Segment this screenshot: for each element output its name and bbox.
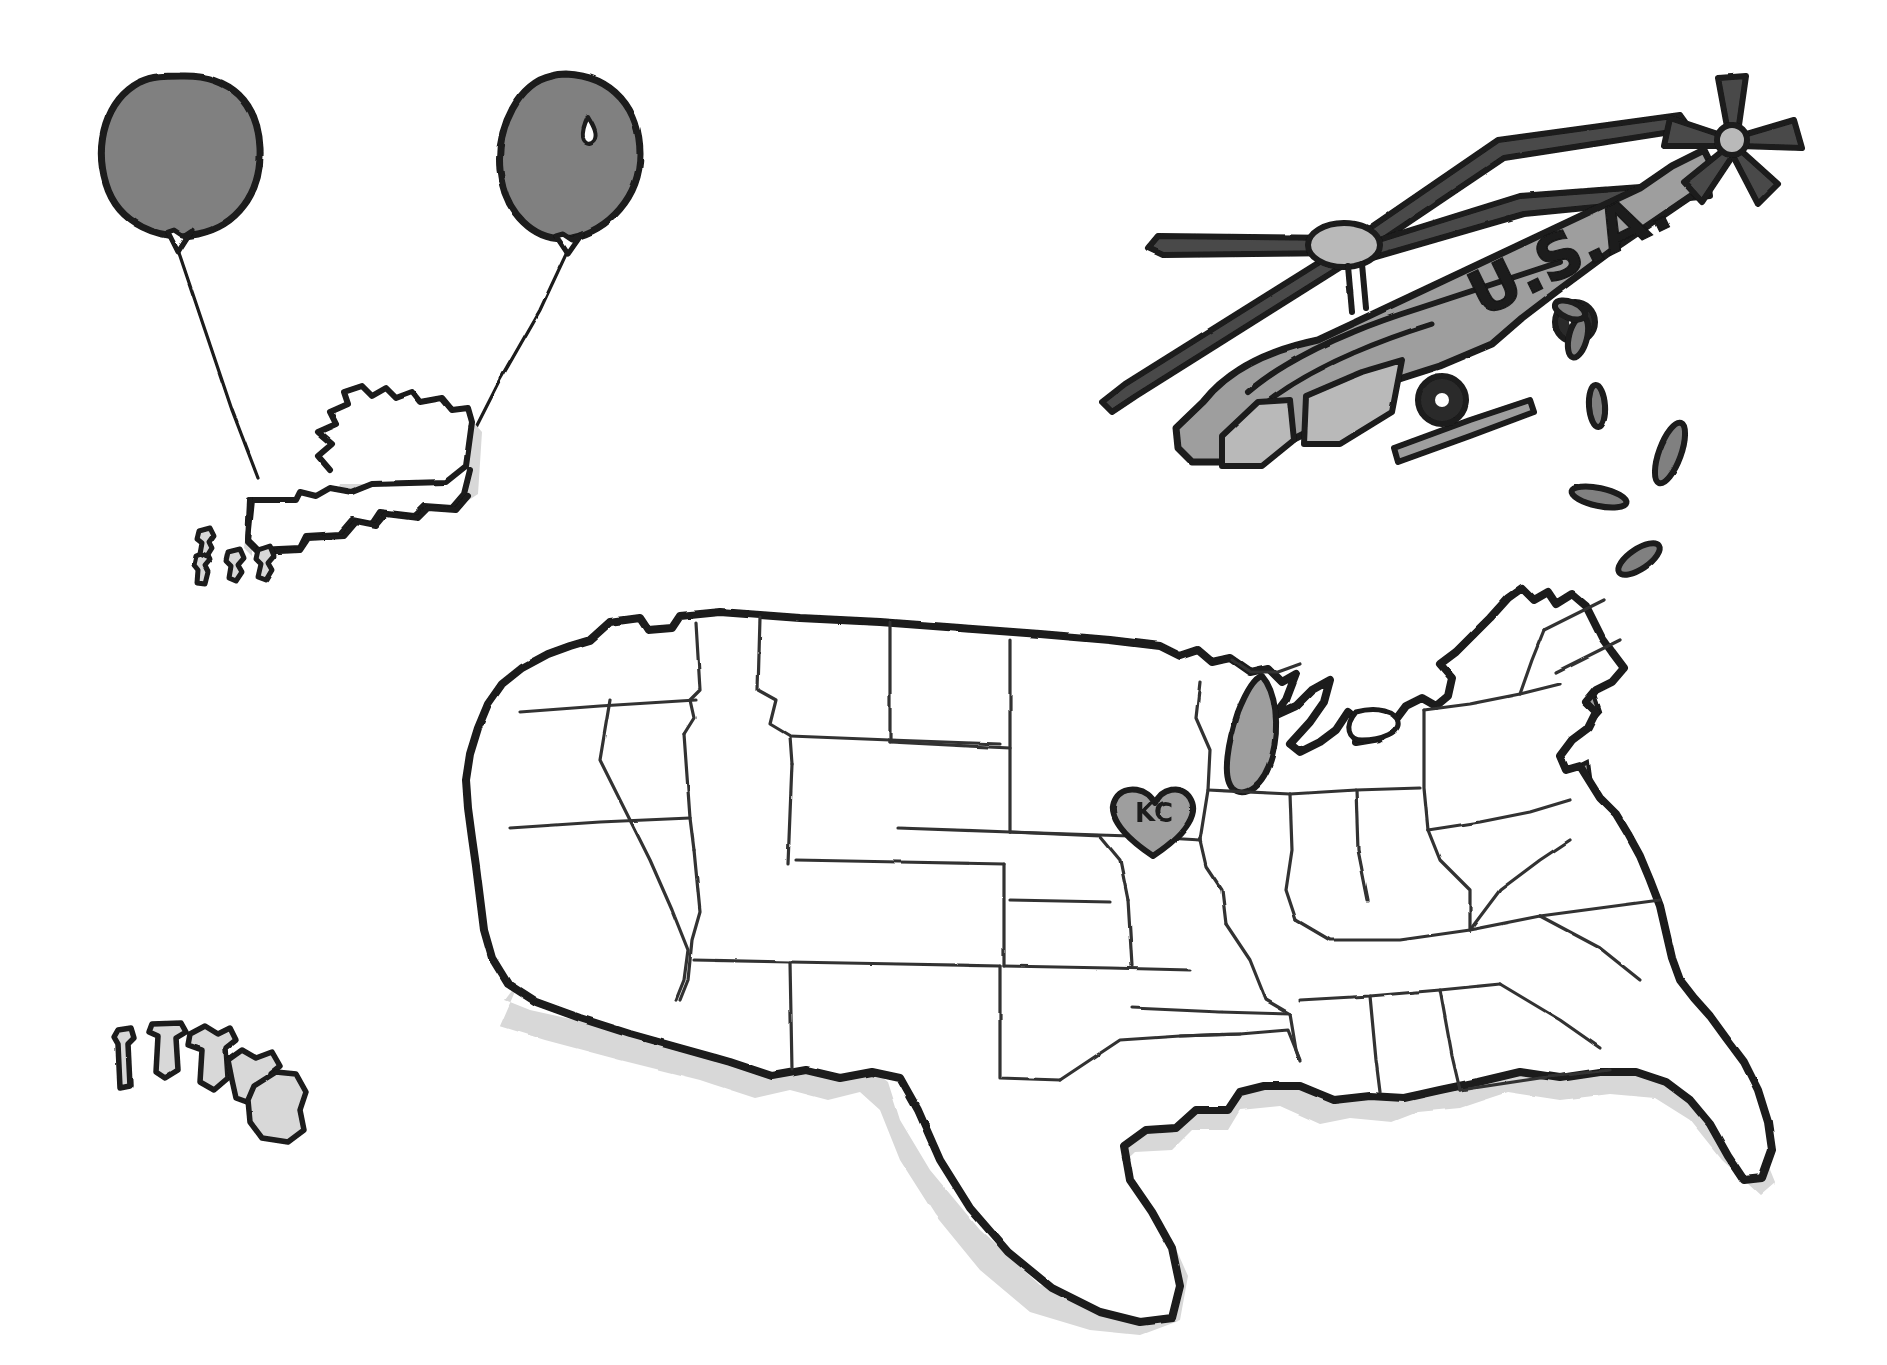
balloon-left (101, 76, 260, 236)
tail-rotor-hub (1717, 125, 1747, 155)
rotor-hub (1308, 223, 1380, 267)
hawaii-island-1 (114, 1028, 134, 1088)
aleutian-island-2 (197, 528, 214, 557)
illustration-canvas: U.S.A. (0, 0, 1887, 1365)
border-az-nm (790, 962, 792, 1070)
balloon-right (500, 74, 640, 239)
kc-label: KC (1135, 798, 1173, 828)
lake-erie-ontario (1349, 710, 1398, 740)
scene-svg: U.S.A. (0, 0, 1887, 1365)
dropped-object-2 (1588, 384, 1607, 427)
border-ut-az (694, 960, 790, 962)
border-ne-ks (1010, 900, 1110, 902)
hawaii-island-5 (248, 1072, 306, 1142)
wheel-front-hub (1435, 393, 1449, 407)
